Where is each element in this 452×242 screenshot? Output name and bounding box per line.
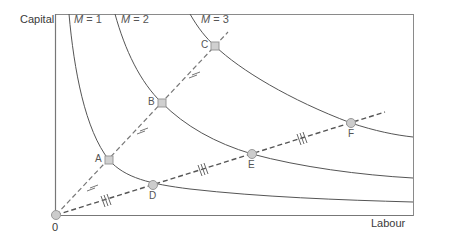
point-a-marker [105, 156, 113, 164]
point-c-label: C [201, 39, 208, 50]
point-e-marker [248, 150, 257, 159]
point-f-label: F [348, 128, 354, 139]
point-d-label: D [149, 190, 156, 201]
diagram-svg [0, 0, 452, 242]
point-c-marker [211, 42, 219, 50]
point-f-marker [347, 119, 356, 128]
origin-label: 0 [52, 221, 58, 233]
point-b-label: B [148, 96, 155, 107]
plot-frame [56, 15, 414, 216]
point-b-marker [158, 99, 166, 107]
point-d-marker [149, 181, 158, 190]
isoquant-m3 [190, 14, 413, 137]
steep-ray-ticks [87, 72, 200, 191]
isoquant-m2-label: M = 2 [121, 13, 149, 25]
isoquant-m2 [115, 14, 413, 178]
y-axis-label: Capital [20, 13, 54, 25]
point-a-label: A [95, 153, 102, 164]
isoquant-diagram: Capital Labour 0 M = 1 M = 2 M = 3 A B C… [0, 0, 452, 242]
isoquant-m3-label: M = 3 [201, 13, 229, 25]
isoquant-m1-label: M = 1 [74, 13, 102, 25]
point-e-label: E [248, 159, 255, 170]
x-axis-label: Labour [371, 217, 405, 229]
origin-marker [52, 211, 61, 220]
